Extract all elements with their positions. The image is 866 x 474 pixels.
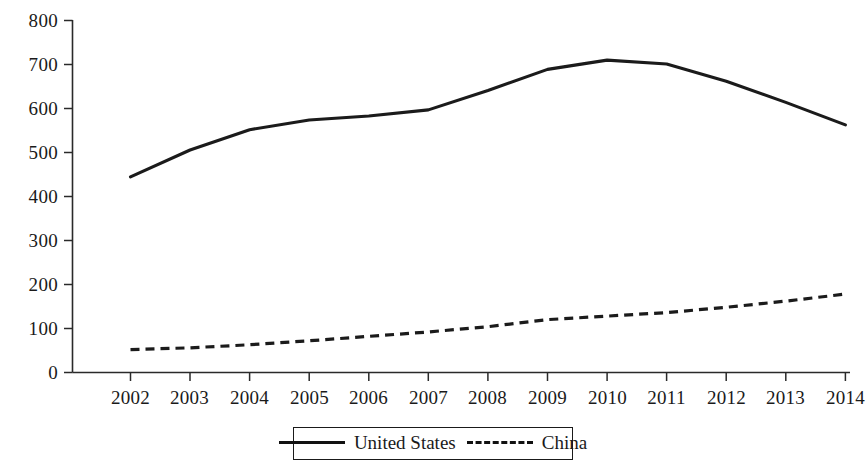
y-tick-label-500: 500 xyxy=(0,143,58,162)
legend-entry-united-states[interactable]: United States xyxy=(279,433,456,453)
legend-swatch-dashed-line-icon xyxy=(467,441,533,444)
x-tick-label-2011: 2011 xyxy=(632,388,701,407)
y-tick-label-0: 0 xyxy=(0,363,58,382)
legend-label-china: China xyxy=(542,433,587,453)
y-tick-marks xyxy=(64,21,73,373)
x-tick-label-2006: 2006 xyxy=(334,388,403,407)
x-tick-label-2008: 2008 xyxy=(453,388,522,407)
chart-figure: 800 700 600 500 400 300 200 100 0 2002 2… xyxy=(0,0,866,474)
x-tick-label-2004: 2004 xyxy=(215,388,284,407)
x-tick-label-2013: 2013 xyxy=(751,388,820,407)
chart-legend: United States China xyxy=(293,427,573,460)
x-tick-marks xyxy=(131,373,846,382)
y-tick-label-200: 200 xyxy=(0,275,58,294)
x-tick-label-2014: 2014 xyxy=(811,388,866,407)
legend-entry-china[interactable]: China xyxy=(467,433,587,453)
y-tick-label-700: 700 xyxy=(0,55,58,74)
series-line-united-states xyxy=(131,60,846,177)
y-tick-label-100: 100 xyxy=(0,319,58,338)
y-tick-label-600: 600 xyxy=(0,99,58,118)
series-line-china xyxy=(131,294,846,350)
y-tick-label-800: 800 xyxy=(0,11,58,30)
y-tick-label-300: 300 xyxy=(0,231,58,250)
x-tick-label-2003: 2003 xyxy=(155,388,224,407)
y-tick-label-400: 400 xyxy=(0,187,58,206)
legend-swatch-solid-line-icon xyxy=(279,441,345,444)
legend-label-united-states: United States xyxy=(354,433,456,453)
x-tick-label-2009: 2009 xyxy=(513,388,582,407)
